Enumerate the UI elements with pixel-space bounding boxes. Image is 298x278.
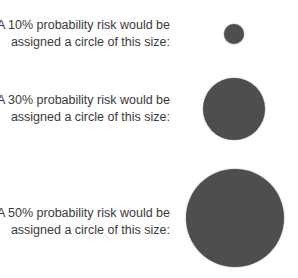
legend-label-line1: A 10% probability risk would be xyxy=(0,17,170,34)
legend-label-line1: A 50% probability risk would be xyxy=(0,205,170,222)
legend-label-line2: assigned a circle of this size: xyxy=(0,34,170,51)
legend-label-line2: assigned a circle of this size: xyxy=(0,109,170,126)
legend-label-30: A 30% probability risk would be assigned… xyxy=(0,92,170,126)
circle-10-percent xyxy=(224,24,244,44)
circle-50-percent xyxy=(186,169,284,267)
legend-label-50: A 50% probability risk would be assigned… xyxy=(0,205,170,239)
legend-label-line1: A 30% probability risk would be xyxy=(0,92,170,109)
circle-30-percent xyxy=(203,78,265,140)
legend-label-10: A 10% probability risk would be assigned… xyxy=(0,17,170,51)
legend-label-line2: assigned a circle of this size: xyxy=(0,222,170,239)
